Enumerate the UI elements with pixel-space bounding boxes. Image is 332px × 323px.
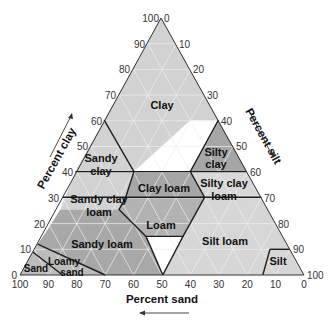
svg-text:50: 50 <box>236 141 248 152</box>
svg-text:40: 40 <box>221 116 233 127</box>
sand-axis-ticks: 100 90 80 70 60 50 40 30 20 10 0 <box>12 279 308 290</box>
svg-text:100: 100 <box>307 270 324 281</box>
label-loamy-sand-1: Loamy <box>48 256 81 267</box>
svg-text:60: 60 <box>250 167 262 178</box>
label-silty-clay-loam-1: Silty clay <box>200 177 249 189</box>
label-silty-clay-loam-2: loam <box>211 190 237 202</box>
soil-texture-triangle: 0 10 20 30 40 50 60 70 80 90 100 0 10 20… <box>0 0 332 323</box>
label-clay: Clay <box>150 99 174 111</box>
svg-text:40: 40 <box>62 167 74 178</box>
label-loamy-sand-2: sand <box>60 267 83 278</box>
svg-text:0: 0 <box>164 13 170 24</box>
label-sandy-loam: Sandy loam <box>71 238 133 250</box>
svg-text:50: 50 <box>156 279 168 290</box>
label-sandy-clay-2: clay <box>90 165 112 177</box>
silt-axis-label: Percent silt <box>243 106 284 166</box>
svg-text:70: 70 <box>105 90 117 101</box>
svg-text:10: 10 <box>20 244 32 255</box>
svg-text:90: 90 <box>293 244 305 255</box>
svg-text:80: 80 <box>278 219 290 230</box>
svg-text:70: 70 <box>100 279 112 290</box>
svg-text:0: 0 <box>301 279 307 290</box>
triangle-diagram: 0 10 20 30 40 50 60 70 80 90 100 0 10 20… <box>0 0 332 323</box>
svg-text:30: 30 <box>213 279 225 290</box>
label-silty-clay-1: Silty <box>204 146 228 158</box>
svg-text:90: 90 <box>43 279 55 290</box>
label-silt: Silt <box>269 255 286 267</box>
label-sandy-clay-1: Sandy <box>84 152 118 164</box>
svg-text:50: 50 <box>77 141 89 152</box>
svg-text:10: 10 <box>270 279 282 290</box>
svg-text:80: 80 <box>119 64 131 75</box>
svg-text:20: 20 <box>34 219 46 230</box>
label-sandy-clay-loam-2: loam <box>86 206 112 218</box>
svg-text:70: 70 <box>264 193 276 204</box>
label-sand: Sand <box>24 263 48 274</box>
svg-text:100: 100 <box>142 13 159 24</box>
label-silty-clay-2: clay <box>205 158 227 170</box>
svg-text:Percent silt: Percent silt <box>243 106 284 166</box>
svg-text:20: 20 <box>242 279 254 290</box>
svg-text:10: 10 <box>179 39 191 50</box>
svg-text:80: 80 <box>71 279 83 290</box>
label-clay-loam: Clay loam <box>138 182 190 194</box>
svg-text:60: 60 <box>128 279 140 290</box>
svg-text:60: 60 <box>91 116 103 127</box>
svg-text:100: 100 <box>12 279 29 290</box>
svg-text:90: 90 <box>134 39 146 50</box>
svg-text:30: 30 <box>207 90 219 101</box>
label-sandy-clay-loam-1: Sandy clay <box>70 193 128 205</box>
svg-text:30: 30 <box>48 193 60 204</box>
sand-axis-arrow <box>139 311 189 316</box>
svg-text:20: 20 <box>193 64 205 75</box>
label-silt-loam: Silt loam <box>202 235 248 247</box>
label-loam: Loam <box>146 219 176 231</box>
sand-axis-label: Percent sand <box>126 293 198 305</box>
svg-text:40: 40 <box>185 279 197 290</box>
